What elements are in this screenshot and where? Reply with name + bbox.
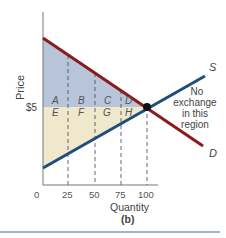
svg-text:region: region xyxy=(181,119,209,130)
x-tick-0: 0 xyxy=(34,189,39,200)
x-tick-100: 100 xyxy=(138,189,154,200)
x-tick-50: 50 xyxy=(89,189,100,200)
panel-label: (b) xyxy=(121,213,134,225)
area-label-b: B xyxy=(78,95,85,106)
svg-text:in this: in this xyxy=(182,108,208,119)
area-label-c: C xyxy=(104,95,112,106)
y-axis-label: Price xyxy=(14,75,26,100)
area-label-f: F xyxy=(78,107,85,118)
svg-text:No: No xyxy=(191,86,204,97)
no-exchange-annotation: No exchange in this region xyxy=(173,86,217,130)
area-label-d: D xyxy=(125,95,132,106)
supply-demand-chart: A B C D E F G H Price $5 0 25 50 75 100 … xyxy=(0,0,226,238)
area-label-a: A xyxy=(51,95,59,106)
x-tick-25: 25 xyxy=(62,189,73,200)
equilibrium-point xyxy=(143,103,151,111)
price-tick-label: $5 xyxy=(26,102,38,113)
area-label-e: E xyxy=(52,107,59,118)
x-axis-label: Quantity xyxy=(110,201,150,213)
x-tick-75: 75 xyxy=(115,189,126,200)
supply-label: S xyxy=(209,61,217,73)
area-label-g: G xyxy=(103,107,111,118)
area-label-h: H xyxy=(125,107,133,118)
svg-text:exchange: exchange xyxy=(173,97,217,108)
demand-label: D xyxy=(209,147,217,159)
